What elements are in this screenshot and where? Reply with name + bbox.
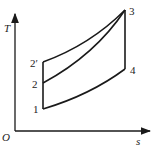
origin-label: O: [2, 131, 10, 143]
curve-4-1: [43, 69, 125, 109]
point-label-1: 1: [33, 103, 39, 115]
s-axis-label: s: [136, 135, 140, 147]
point-label-4: 4: [130, 64, 136, 76]
point-label-2prime: 2′: [30, 57, 38, 69]
point-label-2: 2: [32, 78, 38, 90]
curve-2prime-3: [43, 10, 125, 62]
ts-diagram: T s O 2′ 2 1 3 4: [0, 0, 157, 158]
point-label-3: 3: [129, 5, 135, 17]
t-axis-label: T: [4, 22, 11, 34]
